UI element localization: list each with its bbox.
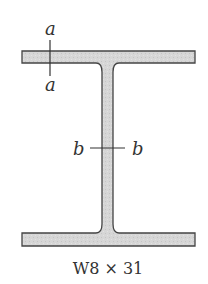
label-a-bottom: a (45, 74, 56, 95)
i-beam-diagram: a a b b W8 × 31 (0, 0, 208, 284)
section-label: W8 × 31 (73, 259, 144, 278)
label-a-top: a (45, 18, 56, 39)
label-b-right: b (132, 138, 144, 159)
label-b-left: b (73, 138, 85, 159)
